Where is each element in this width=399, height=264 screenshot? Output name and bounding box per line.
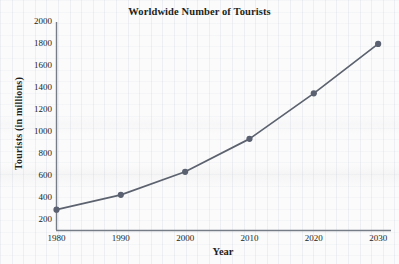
data-point-marker (53, 207, 59, 213)
y-tick-label: 1600 (12, 61, 52, 70)
y-tick-label: 1400 (12, 83, 52, 92)
y-tick-label: 2000 (12, 17, 52, 26)
x-tick-label: 1990 (101, 233, 141, 243)
axes (56, 22, 391, 231)
y-tick-label: 400 (12, 193, 52, 202)
line-chart-canvas (0, 0, 399, 264)
y-tick-label: 1800 (12, 39, 52, 48)
x-tick-label: 1980 (37, 233, 77, 243)
x-tick-label: 2030 (358, 233, 398, 243)
series-line (57, 44, 379, 210)
x-tick-label: 2020 (294, 233, 334, 243)
y-tick-label: 1000 (12, 127, 52, 136)
data-point-marker (311, 90, 317, 96)
data-point-marker (375, 41, 381, 47)
series-markers (53, 41, 381, 213)
plot-area: 2004006008001000120014001600180020001980… (0, 0, 399, 264)
data-series (53, 41, 381, 213)
data-point-marker (118, 192, 124, 198)
y-tick-label: 200 (12, 215, 52, 224)
x-tick-label: 2000 (165, 233, 205, 243)
y-tick-label: 1200 (12, 105, 52, 114)
y-tick-label: 600 (12, 171, 52, 180)
y-tick-label: 800 (12, 149, 52, 158)
data-point-marker (182, 169, 188, 175)
x-tick-label: 2010 (229, 233, 269, 243)
data-point-marker (246, 136, 252, 142)
